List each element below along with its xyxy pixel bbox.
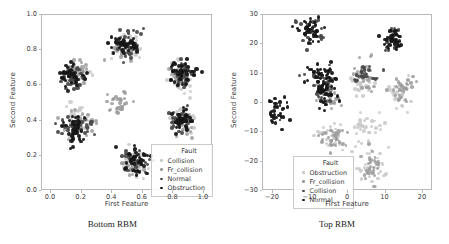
scatter-point (112, 51, 116, 55)
scatter-point (85, 125, 89, 129)
scatter-point (114, 145, 118, 149)
scatter-point (315, 29, 319, 33)
scatter-point (367, 68, 371, 72)
scatter-point (394, 39, 398, 43)
scatter-point (329, 151, 332, 154)
scatter-point (64, 124, 68, 128)
scatter-point (85, 71, 89, 75)
scatter-point (321, 133, 324, 136)
scatter-point (71, 145, 75, 149)
scatter-point (89, 120, 93, 124)
legend-marker-icon (160, 159, 163, 162)
scatter-point (132, 44, 135, 47)
scatter-point (323, 26, 326, 29)
scatter-point (336, 94, 339, 97)
legend-item: Fr_collision (156, 165, 208, 174)
scatter-point (398, 88, 401, 91)
scatter-point (138, 56, 141, 59)
scatter-point (273, 97, 276, 100)
scatter-point (322, 126, 325, 129)
y-tick-label: −10 (236, 127, 258, 135)
scatter-point (350, 150, 354, 154)
scatter-point (190, 136, 194, 140)
scatter-point (330, 139, 333, 142)
scatter-point (376, 167, 379, 170)
scatter-point (319, 68, 322, 71)
scatter-point (397, 98, 400, 101)
scatter-point (337, 129, 340, 132)
scatter-point (383, 121, 387, 125)
scatter-point (378, 111, 381, 114)
scatter-point (278, 100, 281, 103)
y-tick-mark (39, 190, 42, 191)
scatter-point (385, 88, 389, 92)
y-tick-label: 0 (236, 98, 258, 106)
scatter-point (360, 177, 364, 181)
legend-item: Obstruction (298, 168, 349, 177)
legend-marker-icon (302, 190, 305, 193)
scatter-point (139, 32, 143, 36)
scatter-point (365, 86, 368, 89)
scatter-point (318, 73, 322, 77)
scatter-point (128, 52, 132, 56)
scatter-point (65, 105, 69, 109)
legend-item: Fr_collision (298, 177, 349, 186)
scatter-point (185, 126, 188, 129)
scatter-point (339, 123, 342, 126)
scatter-point (359, 128, 362, 131)
scatter-point (118, 46, 121, 49)
scatter-point (372, 85, 375, 88)
scatter-point (367, 131, 370, 134)
x-tick-mark (50, 190, 51, 193)
legend-item: Obstruction (156, 184, 208, 193)
x-tick-mark (422, 190, 423, 193)
y-tick-mark (39, 84, 42, 85)
scatter-point (398, 82, 402, 86)
scatter-point (394, 32, 398, 36)
scatter-point (176, 83, 180, 87)
scatter-point (90, 129, 94, 133)
scatter-point (170, 126, 174, 130)
scatter-point (329, 143, 332, 146)
x-axis-label-right: First Feature (262, 200, 432, 208)
scatter-point (93, 133, 96, 136)
scatter-point (170, 65, 173, 68)
scatter-point (333, 102, 336, 105)
scatter-point (379, 128, 382, 131)
scatter-point (138, 47, 141, 50)
x-tick-mark (81, 190, 82, 193)
scatter-point (127, 143, 130, 146)
scatter-point (401, 105, 404, 108)
caption-top-rbm: Top RBM (225, 219, 449, 229)
scatter-point (359, 155, 362, 158)
x-tick-mark (172, 190, 173, 193)
scatter-point (315, 99, 318, 102)
legend-item: Collision (156, 156, 208, 165)
x-tick-mark (310, 190, 311, 193)
scatter-point (73, 108, 77, 112)
scatter-point (180, 78, 183, 81)
scatter-point (411, 75, 415, 79)
scatter-point (410, 85, 413, 88)
scatter-point (132, 100, 135, 103)
y-tick-label: 10 (236, 69, 258, 77)
scatter-point (184, 69, 188, 73)
scatter-point (129, 56, 133, 60)
scatter-point (370, 180, 374, 184)
scatter-point (354, 145, 357, 148)
legend-left: Fault Collision Fr_collision Normal Obst… (151, 144, 213, 197)
scatter-point (358, 56, 361, 59)
scatter-point (169, 78, 172, 81)
scatter-point (345, 144, 348, 147)
scatter-point (341, 129, 345, 133)
scatter-point (103, 58, 106, 61)
scatter-point (334, 131, 337, 134)
scatter-point (68, 69, 71, 72)
y-tick-mark (260, 102, 263, 103)
scatter-point (132, 29, 135, 32)
scatter-point (355, 73, 358, 76)
scatter-point (371, 150, 374, 153)
scatter-point (395, 85, 398, 88)
scatter-point (85, 67, 88, 70)
scatter-point (362, 129, 366, 133)
